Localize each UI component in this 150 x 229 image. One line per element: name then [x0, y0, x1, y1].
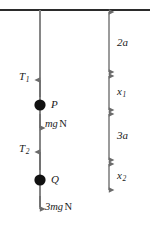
particle-q [34, 174, 45, 185]
tension-1-label: T1 [19, 71, 29, 83]
dimension-x2-label: x2 [117, 170, 126, 182]
tension-1-subscript: 1 [25, 75, 29, 84]
dimension-2a-label: 2a [117, 37, 128, 48]
particle-q-label: Q [51, 174, 59, 185]
dimension-x2-subscript: 2 [122, 174, 126, 183]
weight-3mg-label: 3mgN [45, 202, 72, 213]
weight-3mg-unit: N [63, 201, 72, 212]
tension-2-subscript: 2 [25, 147, 29, 156]
weight-3mg-symbol: 3mg [45, 201, 63, 212]
mechanics-diagram: T1 P mgN T2 Q 3mgN 2a x1 3a x2 [0, 0, 150, 229]
particle-p [34, 99, 45, 110]
weight-mg-symbol: mg [45, 118, 58, 129]
dimension-x1-label: x1 [117, 86, 126, 98]
dimension-x1-subscript: 1 [122, 90, 126, 99]
dimension-3a-label: 3a [117, 130, 128, 141]
weight-mg-label: mgN [45, 119, 67, 130]
tension-2-label: T2 [19, 143, 29, 155]
particle-p-label: P [51, 99, 58, 110]
weight-mg-unit: N [58, 118, 67, 129]
diagram-canvas [0, 0, 150, 229]
